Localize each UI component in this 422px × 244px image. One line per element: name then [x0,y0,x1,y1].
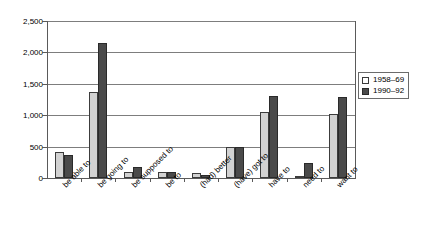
x-axis-label: (have) got to [232,151,270,189]
legend-item[interactable]: 1990–92 [362,87,404,95]
x-axis-label: be going to [96,155,130,189]
x-axis-label: have to [267,164,292,189]
legend-swatch-icon [362,88,369,95]
x-axis-label: be to [164,170,183,189]
bar-chart: 2,5002,0001,5001,0005000 be able tobe go… [0,0,422,244]
x-axis-label: need to [301,164,326,189]
x-axis-label: want to [335,165,360,190]
legend-label: 1958–69 [373,76,404,84]
x-axis-label: be able to [61,158,92,189]
legend-swatch-icon [362,77,369,84]
legend-label: 1990–92 [373,87,404,95]
legend[interactable]: 1958–691990–92 [358,72,409,99]
legend-item[interactable]: 1958–69 [362,76,404,84]
x-axis-labels: be able tobe going tobe supposed tobe to… [0,0,422,244]
x-axis-label: (had) better [198,154,234,190]
